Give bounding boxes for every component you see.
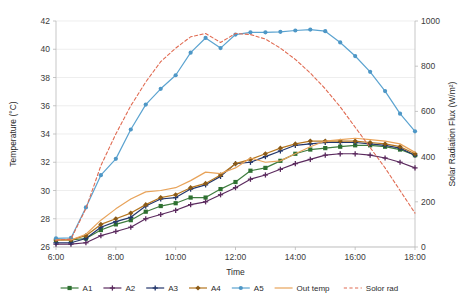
data-point-marker (203, 36, 207, 40)
data-point-marker (233, 180, 237, 184)
data-point-marker (398, 112, 402, 116)
legend-item-a5[interactable]: A5 (232, 284, 264, 293)
series-a3 (53, 140, 417, 245)
data-point-marker (397, 160, 402, 165)
data-point-marker (159, 204, 163, 208)
legend-item-a4[interactable]: A4 (189, 284, 221, 293)
data-point-marker (129, 127, 133, 131)
y2-axis-tick-label: 0 (421, 242, 426, 252)
legend-label: A5 (254, 284, 264, 293)
x-axis-tick-label: 18:00 (404, 252, 426, 262)
data-point-marker (323, 146, 327, 150)
series-solor-rad (56, 33, 415, 240)
y-axis-title: Temperature (°C) (8, 101, 18, 166)
x-axis-tick-label: 14:00 (285, 252, 307, 262)
data-point-marker (248, 177, 253, 182)
data-point-marker (143, 216, 148, 221)
data-point-marker (338, 40, 342, 44)
data-point-marker (383, 89, 387, 93)
legend-item-a3[interactable]: A3 (146, 284, 178, 293)
series-line (56, 142, 415, 242)
y2-axis-tick-label: 400 (421, 152, 435, 162)
data-point-marker (188, 202, 193, 207)
data-point-marker (382, 155, 387, 160)
y-axis-tick-label: 34 (41, 129, 51, 139)
data-point-marker (353, 151, 358, 156)
y2-axis-tick-label: 600 (421, 106, 435, 116)
x-axis-tick-label: 8:00 (108, 252, 125, 262)
data-point-marker (68, 286, 72, 290)
x-axis-tick-label: 12:00 (225, 252, 247, 262)
data-point-marker (263, 166, 267, 170)
legend-label: A2 (125, 284, 135, 293)
data-point-marker (159, 87, 163, 91)
legend-label: A3 (168, 284, 178, 293)
x-axis-tick-label: 6:00 (48, 252, 65, 262)
data-point-marker (308, 157, 313, 162)
data-point-marker (144, 103, 148, 107)
legend-item-a2[interactable]: A2 (103, 284, 135, 293)
y2-axis-title: Solar Radiation Flux (W/m²) (447, 81, 457, 186)
data-point-marker (110, 285, 115, 290)
y-axis-tick-label: 36 (41, 101, 51, 111)
data-point-marker (189, 195, 193, 199)
chart-container: 262830323436384042020040060080010006:008… (0, 0, 470, 304)
y-axis-tick-label: 32 (41, 157, 51, 167)
data-point-marker (263, 30, 267, 34)
data-point-marker (99, 173, 103, 177)
data-point-marker (218, 46, 222, 50)
y-axis-tick-label: 42 (41, 16, 51, 26)
x-axis-title: Time (226, 267, 245, 277)
data-point-marker (218, 187, 222, 191)
data-point-marker (144, 210, 148, 214)
y-axis-tick-label: 40 (41, 44, 51, 54)
y-axis-tick-label: 26 (41, 242, 51, 252)
x-axis-tick-label: 16:00 (345, 252, 367, 262)
data-point-marker (174, 201, 178, 205)
data-point-marker (278, 167, 283, 172)
data-point-marker (203, 199, 208, 204)
data-point-marker (239, 286, 243, 290)
data-point-marker (233, 185, 238, 190)
data-point-marker (308, 138, 313, 143)
legend-item-a1[interactable]: A1 (61, 284, 93, 293)
data-point-marker (128, 211, 133, 216)
data-point-marker (338, 145, 342, 149)
data-point-marker (248, 30, 252, 34)
y-axis-tick-label: 30 (41, 186, 51, 196)
data-point-marker (248, 169, 252, 173)
data-point-marker (263, 172, 268, 177)
data-point-marker (368, 70, 372, 74)
legend-item-out-temp[interactable]: Out temp (275, 284, 330, 293)
data-point-marker (158, 212, 163, 217)
y2-axis-tick-label: 1000 (421, 16, 440, 26)
data-point-marker (153, 285, 158, 290)
data-point-marker (293, 161, 298, 166)
data-point-marker (128, 225, 133, 230)
line-chart: 262830323436384042020040060080010006:008… (0, 0, 470, 304)
legend-item-solor-rad[interactable]: Solor rad (344, 284, 398, 293)
data-point-marker (189, 51, 193, 55)
data-point-marker (113, 229, 118, 234)
y-axis-tick-label: 28 (41, 214, 51, 224)
data-point-marker (203, 195, 207, 199)
series-line (56, 145, 415, 240)
data-point-marker (338, 151, 343, 156)
data-point-marker (323, 29, 327, 33)
data-point-marker (368, 153, 373, 158)
data-point-marker (293, 28, 297, 32)
data-point-marker (114, 157, 118, 161)
data-point-marker (323, 153, 328, 158)
series-a1 (54, 143, 417, 242)
data-point-marker (353, 54, 357, 58)
data-point-marker (413, 129, 417, 133)
data-point-marker (174, 73, 178, 77)
data-point-marker (98, 233, 103, 238)
data-point-marker (173, 208, 178, 213)
legend-label: Solor rad (366, 284, 398, 293)
y2-axis-tick-label: 800 (421, 61, 435, 71)
y-axis-tick-label: 38 (41, 73, 51, 83)
data-point-marker (308, 27, 312, 31)
data-point-marker (308, 147, 312, 151)
x-axis-tick-label: 10:00 (165, 252, 187, 262)
